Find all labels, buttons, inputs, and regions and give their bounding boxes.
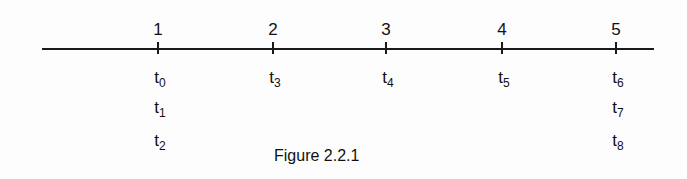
point-label: 3: [371, 20, 401, 40]
time-label: t1: [140, 98, 180, 120]
tick-mark: [615, 42, 617, 54]
time-label: t2: [140, 131, 180, 153]
point-label: 4: [487, 20, 517, 40]
time-label: t0: [140, 68, 180, 90]
tick-mark: [385, 42, 387, 54]
tick-mark: [501, 42, 503, 54]
figure-caption: Figure 2.2.1: [274, 147, 359, 165]
time-label: t7: [598, 98, 638, 120]
time-label: t4: [368, 68, 408, 90]
time-label: t6: [598, 68, 638, 90]
time-label: t8: [598, 131, 638, 153]
time-label: t3: [255, 68, 295, 90]
tick-mark: [272, 42, 274, 54]
point-label: 1: [143, 20, 173, 40]
point-label: 5: [601, 20, 631, 40]
point-label: 2: [258, 20, 288, 40]
time-label: t5: [484, 68, 524, 90]
timeline-axis: [42, 48, 654, 50]
tick-mark: [157, 42, 159, 54]
